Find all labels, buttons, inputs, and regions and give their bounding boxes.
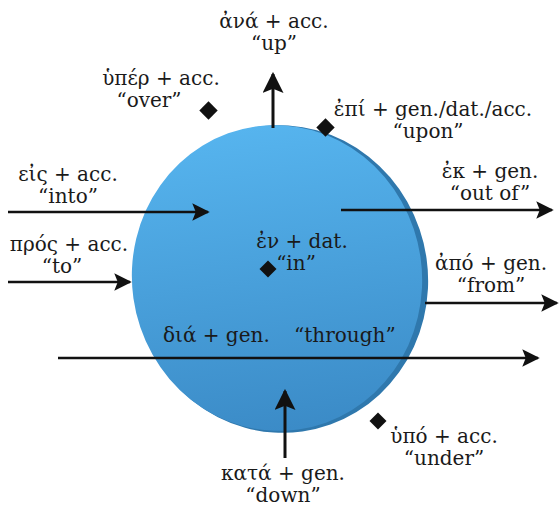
label-hyper: ὑπέρ + acc. “over” bbox=[96, 67, 226, 111]
greek-pros: πρός + acc. bbox=[4, 233, 134, 255]
gloss-kata: “down” bbox=[218, 484, 348, 506]
preposition-diagram: ἀνά + acc. “up” ὑπέρ + acc. “over” ἐπί +… bbox=[0, 0, 560, 516]
gloss-en: “in” bbox=[252, 252, 352, 274]
gloss-dia: “through” bbox=[294, 323, 396, 347]
label-eis: εἰς + acc. “into” bbox=[8, 163, 128, 207]
gloss-epi: “upon” bbox=[313, 120, 553, 142]
gloss-apo: “from” bbox=[428, 274, 554, 296]
gloss-hypo: “under” bbox=[380, 447, 508, 469]
label-en: ἐν + dat. “in” bbox=[252, 230, 352, 274]
label-hypo: ὑπό + acc. “under” bbox=[380, 425, 508, 469]
label-pros: πρός + acc. “to” bbox=[4, 233, 134, 277]
sphere bbox=[112, 106, 448, 452]
greek-hyper: ὑπέρ + acc. bbox=[96, 67, 226, 89]
gloss-ana: “up” bbox=[218, 32, 330, 54]
greek-apo: ἀπό + gen. bbox=[428, 252, 554, 274]
label-dia: διά + gen. “through” bbox=[163, 324, 396, 346]
label-ana: ἀνά + acc. “up” bbox=[218, 10, 330, 54]
greek-hypo: ὑπό + acc. bbox=[380, 425, 508, 447]
gloss-pros: “to” bbox=[4, 255, 134, 277]
label-apo: ἀπό + gen. “from” bbox=[428, 252, 554, 296]
gloss-ek: “out of” bbox=[430, 182, 550, 204]
label-kata: κατά + gen. “down” bbox=[218, 462, 348, 506]
gloss-eis: “into” bbox=[8, 185, 128, 207]
label-ek: ἐκ + gen. “out of” bbox=[430, 160, 550, 204]
greek-en: ἐν + dat. bbox=[252, 230, 352, 252]
gloss-hyper: “over” bbox=[96, 89, 226, 111]
greek-ek: ἐκ + gen. bbox=[430, 160, 550, 182]
greek-kata: κατά + gen. bbox=[218, 462, 348, 484]
greek-epi: ἐπί + gen./dat./acc. bbox=[313, 98, 553, 120]
greek-ana: ἀνά + acc. bbox=[218, 10, 330, 32]
label-epi: ἐπί + gen./dat./acc. “upon” bbox=[313, 98, 553, 142]
greek-dia: διά + gen. bbox=[163, 323, 270, 347]
greek-eis: εἰς + acc. bbox=[8, 163, 128, 185]
